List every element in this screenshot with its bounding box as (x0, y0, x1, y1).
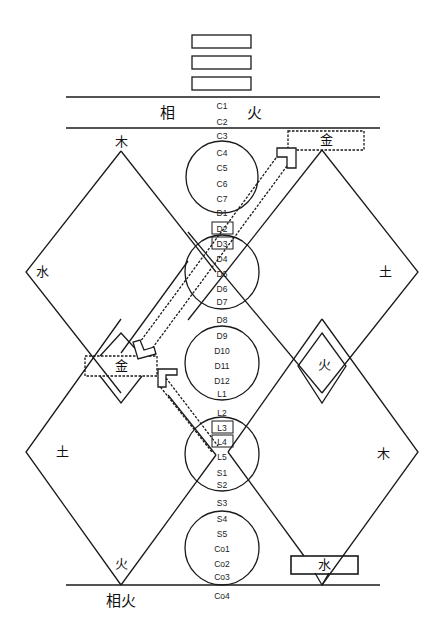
spine-label-d7: D7 (202, 297, 242, 307)
spine-label-d6: D6 (202, 284, 242, 294)
spine-label-s1: S1 (202, 468, 242, 478)
spine-label-c1: C1 (202, 101, 242, 111)
spine-label-l4: L4 (202, 437, 242, 447)
spine-label-c5: C5 (202, 163, 242, 173)
spine-label-c4: C4 (202, 148, 242, 158)
arrow-head-top (277, 148, 296, 168)
trigram-bar-1 (192, 35, 251, 48)
spine-label-d11: D11 (202, 361, 242, 371)
spine-label-co3: Co3 (202, 572, 242, 582)
header-left-label: 相 (155, 105, 179, 121)
trigram-bar-3 (192, 77, 251, 90)
header-right-label: 火 (242, 105, 266, 121)
spine-label-d4: D4 (202, 254, 242, 264)
label-water-left: 水 (30, 264, 54, 280)
spine-label-c6: C6 (202, 179, 242, 189)
label-earth-left: 土 (50, 444, 74, 460)
label-wood-top: 木 (109, 134, 133, 150)
trigram-bar-2 (192, 56, 251, 69)
spine-label-co4: Co4 (202, 591, 242, 601)
spine-label-co1: Co1 (202, 544, 242, 554)
footer-label: 相火 (101, 593, 141, 609)
spine-label-c3: C3 (202, 131, 242, 141)
arrow-head-mid-left (133, 340, 156, 359)
label-metal-top: 金 (314, 132, 338, 148)
label-fire-bottom: 火 (109, 556, 133, 572)
spine-label-s3: S3 (202, 498, 242, 508)
spine-label-d5: D5 (202, 269, 242, 279)
spine-label-c2: C2 (202, 117, 242, 127)
label-earth-right: 土 (373, 264, 397, 280)
spine-label-d8: D8 (202, 315, 242, 325)
spine-label-d12: D12 (202, 376, 242, 386)
diamond-upper-right (322, 150, 418, 393)
spine-label-l1: L1 (202, 389, 242, 399)
spine-label-d10: D10 (202, 346, 242, 356)
diamond-lower-right (322, 319, 418, 585)
label-wood-right: 木 (371, 446, 395, 462)
label-metal-middle: 金 (109, 358, 133, 374)
spine-label-s5: S5 (202, 529, 242, 539)
spine-label-s4: S4 (202, 514, 242, 524)
spine-label-c7: C7 (202, 194, 242, 204)
spine-label-l3: L3 (202, 423, 242, 433)
spine-label-l2: L2 (202, 408, 242, 418)
spine-label-d2: D2 (202, 224, 242, 234)
arrow-head-mid-right (158, 369, 177, 387)
spine-label-l5: L5 (202, 452, 242, 462)
spine-label-d1: D1 (202, 208, 242, 218)
spine-label-d3: D3 (202, 239, 242, 249)
spine-label-co2: Co2 (202, 559, 242, 569)
label-fire-small: 火 (312, 357, 336, 373)
spine-label-d9: D9 (202, 331, 242, 341)
spine-label-s2: S2 (202, 480, 242, 490)
label-water-box: 水 (312, 557, 336, 573)
